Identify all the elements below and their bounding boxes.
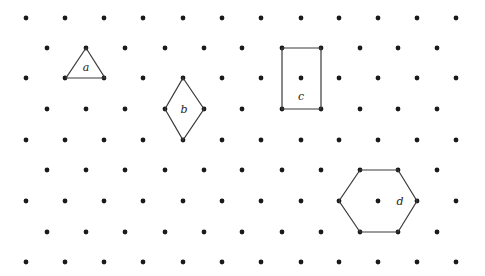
grid-dot [220, 260, 225, 265]
grid-dot [45, 107, 50, 112]
grid-dot [337, 138, 342, 143]
grid-dot [84, 230, 89, 235]
grid-dot [454, 199, 459, 204]
grid-dot [123, 168, 128, 173]
grid-dot [141, 199, 146, 204]
grid-dot [259, 76, 264, 81]
grid-dot [181, 260, 186, 265]
grid-dot [280, 230, 285, 235]
shapes-layer: a b c d [66, 48, 417, 232]
grid-dot [45, 46, 50, 51]
grid-dot [337, 76, 342, 81]
grid-dot [415, 16, 420, 21]
grid-dot [202, 168, 207, 173]
grid-dot [24, 76, 29, 81]
grid-dot [240, 46, 245, 51]
grid-dot [220, 199, 225, 204]
grid-dot [435, 230, 440, 235]
grid-dot [240, 107, 245, 112]
grid-dot [240, 230, 245, 235]
grid-dot [376, 199, 381, 204]
grid-dot [102, 138, 107, 143]
isometric-dot-grid: a b c d [0, 0, 485, 276]
grid-dot [84, 168, 89, 173]
grid-dot [102, 199, 107, 204]
grid-dot [299, 16, 304, 21]
shape-label-c: c [298, 90, 304, 103]
grid-dot [63, 260, 68, 265]
grid-dot [163, 230, 168, 235]
grid-dot [454, 76, 459, 81]
grid-dot [415, 76, 420, 81]
grid-dot [240, 168, 245, 173]
grid-dot [376, 76, 381, 81]
grid-dot [415, 260, 420, 265]
grid-dot [376, 138, 381, 143]
grid-dot [454, 138, 459, 143]
shape-b-rhombus: b [165, 78, 204, 140]
grid-dot [299, 76, 304, 81]
grid-dot [454, 260, 459, 265]
grid-dot [202, 46, 207, 51]
grid-dot [280, 168, 285, 173]
grid-dot [181, 199, 186, 204]
grid-dot [181, 16, 186, 21]
grid-dot [63, 138, 68, 143]
grid-dot [24, 16, 29, 21]
grid-dot [415, 138, 420, 143]
grid-dot [396, 107, 401, 112]
grid-dot [123, 107, 128, 112]
grid-dot [454, 16, 459, 21]
grid-dot [45, 230, 50, 235]
grid-dot [24, 260, 29, 265]
grid-dot [435, 46, 440, 51]
grid-dot [63, 16, 68, 21]
grid-dot [299, 199, 304, 204]
grid-dot [163, 168, 168, 173]
grid-dot [337, 260, 342, 265]
grid-dot [220, 16, 225, 21]
grid-dot [376, 260, 381, 265]
grid-dot [358, 107, 363, 112]
grid-dot [337, 16, 342, 21]
grid-dot [299, 138, 304, 143]
grid-dot [259, 199, 264, 204]
grid-dot [319, 168, 324, 173]
grid-dot [435, 168, 440, 173]
grid-dot [84, 107, 89, 112]
grid-dot [259, 138, 264, 143]
grid-dot [123, 230, 128, 235]
grid-dot [24, 138, 29, 143]
grid-dot [220, 138, 225, 143]
grid-dot [24, 199, 29, 204]
grid-dot [141, 138, 146, 143]
grid-dot [123, 46, 128, 51]
shape-label-b: b [180, 103, 187, 116]
grid-dot [102, 260, 107, 265]
grid-dot [63, 199, 68, 204]
grid-dot [358, 46, 363, 51]
grid-dot [435, 107, 440, 112]
grid-dot [259, 260, 264, 265]
grid-dot [319, 230, 324, 235]
grid-dot [220, 76, 225, 81]
dot-grid-diagram: a b c d [0, 0, 485, 276]
shape-label-a: a [83, 61, 90, 74]
grid-dot [141, 16, 146, 21]
grid-dot [376, 16, 381, 21]
grid-dot [259, 16, 264, 21]
grid-dot [396, 46, 401, 51]
grid-dot [141, 260, 146, 265]
grid-dot [163, 46, 168, 51]
grid-dot [102, 16, 107, 21]
grid-dot [141, 76, 146, 81]
grid-dot [202, 230, 207, 235]
grid-dot [299, 260, 304, 265]
grid-dot [45, 168, 50, 173]
shape-a-triangle: a [66, 48, 105, 78]
shape-label-d: d [396, 195, 403, 208]
